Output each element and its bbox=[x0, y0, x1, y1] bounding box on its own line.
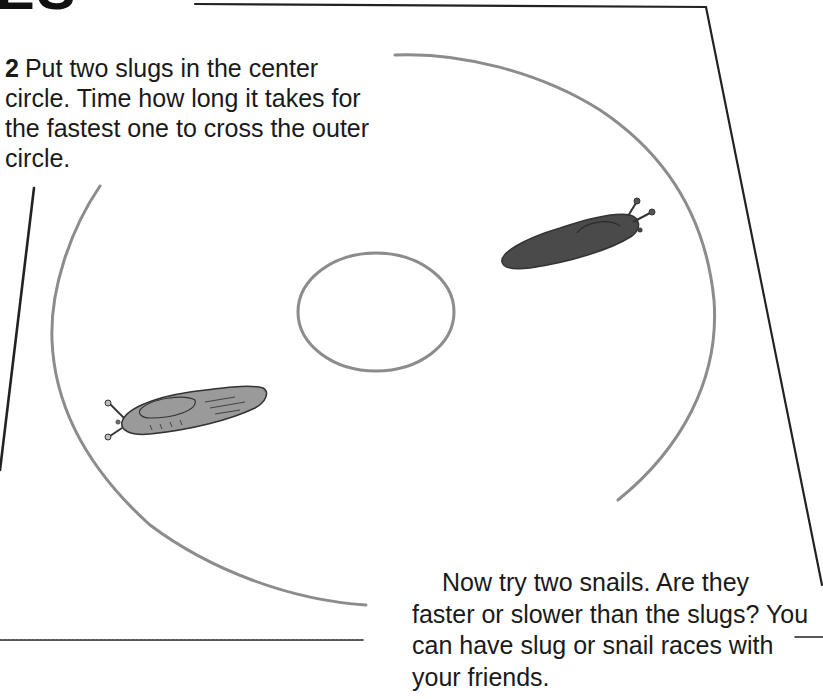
center-circle bbox=[298, 253, 454, 371]
step-instruction: 2Put two slugs in the center circle. Tim… bbox=[5, 53, 385, 173]
slug-dark bbox=[502, 198, 655, 269]
closing-paragraph: Now try two snails. Are they faster or s… bbox=[412, 567, 812, 693]
slug-light bbox=[105, 386, 266, 440]
step-text: Put two slugs in the center circle. Time… bbox=[5, 54, 369, 172]
step-number: 2 bbox=[5, 54, 19, 82]
